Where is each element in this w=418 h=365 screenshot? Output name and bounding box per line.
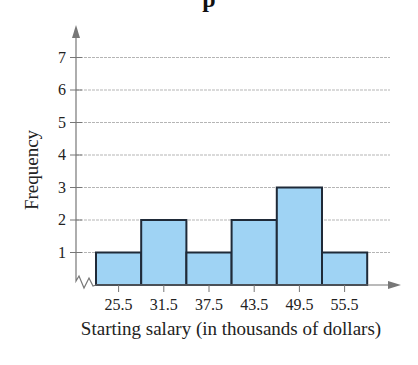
y-tick-label: 7: [58, 49, 66, 66]
y-tick-label: 1: [58, 244, 66, 261]
y-axis-arrow-icon: [72, 25, 80, 38]
histogram-bar: [322, 253, 367, 286]
gridlines: [70, 58, 390, 253]
histogram-bar: [186, 253, 231, 286]
x-tick-label: 31.5: [150, 296, 178, 313]
bars: [96, 188, 367, 293]
y-axis-label: Frequency: [21, 130, 43, 210]
x-axis-label: Starting salary (in thousands of dollars…: [0, 318, 418, 340]
histogram-bar: [277, 188, 322, 286]
x-tick-label: 37.5: [195, 296, 223, 313]
x-tick-label: 43.5: [240, 296, 268, 313]
x-tick-label: 55.5: [331, 296, 359, 313]
x-axis-arrow-icon: [388, 281, 401, 289]
x-tick-labels: 25.531.537.543.549.555.5: [105, 296, 359, 313]
y-tick-label: 5: [58, 114, 66, 131]
y-tick-labels: 1234567: [58, 49, 66, 261]
y-tick-label: 2: [58, 211, 66, 228]
y-tick-label: 6: [58, 81, 66, 98]
x-tick-label: 49.5: [285, 296, 313, 313]
histogram-bar: [141, 220, 186, 285]
y-tick-label: 3: [58, 179, 66, 196]
y-tick-label: 4: [58, 146, 66, 163]
axis-break-icon: [76, 275, 96, 288]
histogram-bar: [232, 220, 277, 285]
x-tick-label: 25.5: [105, 296, 133, 313]
histogram-plot: 1234567 25.531.537.543.549.555.5: [0, 0, 418, 365]
histogram-bar: [96, 253, 141, 286]
